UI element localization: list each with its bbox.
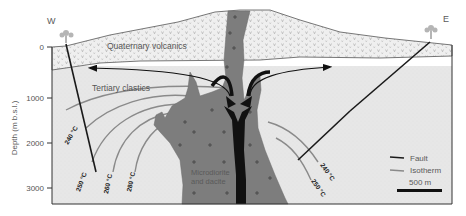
vent-tree-icon-west: [60, 30, 74, 43]
quaternary-volcanics-unit: [52, 10, 452, 70]
scale-bar-label: 500 m: [409, 178, 432, 187]
west-label: W: [47, 16, 56, 26]
east-label: E: [443, 14, 449, 24]
intrusion-label-line1: Microdiorite: [191, 168, 230, 177]
intrusion-label-line2: and dacite: [191, 177, 226, 186]
legend-isotherm-swatch: [390, 170, 404, 171]
y-tick-0: 0: [40, 43, 45, 52]
scale-bar: [397, 189, 442, 192]
quaternary-volcanics-label: Quaternary volcanics: [107, 41, 187, 51]
y-axis: [47, 47, 52, 188]
y-tick-3000: 3000: [26, 184, 44, 193]
geologic-cross-section: 0 1000 2000 3000 Depth (m b.s.l.) W E Qu…: [0, 0, 466, 216]
y-tick-2000: 2000: [26, 139, 44, 148]
y-axis-label: Depth (m b.s.l.): [10, 100, 19, 155]
legend-isotherm-label: Isotherm: [410, 166, 441, 175]
tertiary-clastics-label: Tertiary clastics: [92, 83, 150, 93]
legend-fault-label: Fault: [410, 154, 429, 163]
legend-fault-swatch: [390, 157, 404, 158]
y-tick-1000: 1000: [26, 94, 44, 103]
vent-tree-icon-east: [425, 25, 438, 39]
